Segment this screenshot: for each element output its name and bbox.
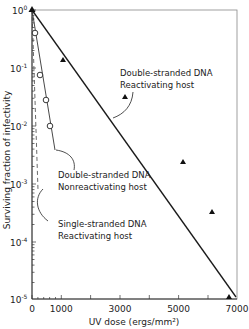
survival-chart: 100 10-1 10-2 10-3 10-4 10-5 0 1000 3000… — [0, 0, 249, 329]
svg-text:10-5: 10-5 — [10, 293, 28, 305]
svg-text:Reactivating host: Reactivating host — [58, 231, 133, 241]
annotation-ss-reactivating: Single-stranded DNA Reactivating host — [37, 189, 146, 241]
svg-text:7000: 7000 — [226, 304, 249, 314]
svg-text:Double-stranded DNA: Double-stranded DNA — [120, 68, 213, 78]
triangle-markers — [29, 6, 233, 299]
y-ticks — [32, 10, 36, 283]
svg-text:100: 100 — [12, 4, 27, 16]
svg-text:5000: 5000 — [167, 304, 190, 314]
svg-text:Single-stranded DNA: Single-stranded DNA — [58, 219, 147, 229]
y-tick-labels: 100 10-1 10-2 10-3 10-4 10-5 — [10, 4, 28, 305]
svg-text:10-1: 10-1 — [10, 62, 28, 74]
annotation-ds-reactivating: Double-stranded DNA Reactivating host — [113, 68, 213, 118]
svg-text:10-3: 10-3 — [10, 178, 28, 190]
svg-text:3000: 3000 — [109, 304, 132, 314]
svg-text:10-4: 10-4 — [10, 236, 28, 248]
ds-reactivating-line — [32, 10, 236, 297]
svg-text:Reactivating host: Reactivating host — [120, 80, 195, 90]
x-ticks — [32, 295, 208, 299]
svg-text:1000: 1000 — [50, 304, 73, 314]
x-tick-labels: 0 1000 3000 5000 7000 — [29, 304, 249, 314]
y-axis-title: Surviving fraction of infectivity — [2, 90, 12, 229]
ss-reactivating-line — [32, 10, 38, 190]
svg-text:0: 0 — [29, 304, 35, 314]
circle-markers — [32, 30, 53, 129]
svg-text:Double-stranded DNA: Double-stranded DNA — [58, 170, 151, 180]
x-axis-title: UV dose (ergs/mm²) — [89, 317, 180, 327]
svg-text:Nonreactivating host: Nonreactivating host — [58, 182, 147, 192]
svg-text:10-2: 10-2 — [10, 120, 28, 132]
